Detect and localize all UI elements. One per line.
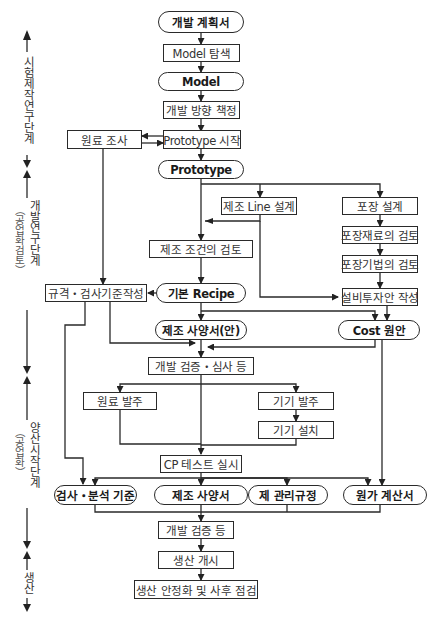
- node-packaging-design: 포장 설계: [342, 197, 418, 215]
- node-development-plan: 개발 계획서: [158, 11, 244, 33]
- node-raw-material-survey: 원료 조사: [67, 130, 142, 149]
- node-facility-investment-plan: 설비투자안 작성: [342, 288, 418, 306]
- node-development-verification: 개발 검증 등: [158, 521, 234, 539]
- stage-label-development-research: 개발연구단계: [26, 200, 42, 266]
- node-equipment-order: 기기 발주: [258, 392, 334, 410]
- node-prototype: Prototype: [158, 160, 244, 179]
- stage-sublabel-industrialization: （공업화）: [12, 427, 27, 477]
- node-raw-material-order: 원료 발주: [83, 392, 157, 410]
- node-cost-draft: Cost 원안: [338, 320, 420, 340]
- node-manufacturing-condition-review: 제조 조건의 검토: [149, 240, 253, 258]
- node-equipment-install: 기기 설치: [258, 421, 334, 439]
- node-packaging-method-review: 포장기법의 검토: [342, 255, 418, 273]
- stage-label-mass-production-start: 양산시작단계: [26, 422, 42, 488]
- node-production-start: 생산 개시: [158, 551, 234, 569]
- node-production-stabilization: 생산 안정화 및 사후 점검: [134, 580, 258, 599]
- node-model-search: Model 탐색: [163, 44, 240, 62]
- node-development-verification-review: 개발 검증・심사 등: [148, 357, 254, 375]
- node-manufacturing-spec-draft: 제조 사양서(안): [155, 320, 247, 340]
- node-spec-inspection-standard: 규격・검사기준작성: [45, 284, 147, 302]
- stage-label-prototype-research: 시험제작연구단계: [20, 56, 36, 144]
- node-prototype-start: Prototype 시작: [163, 130, 241, 149]
- node-cost-calculation: 원가 계산서: [343, 485, 427, 505]
- node-development-direction: 개발 방향 책정: [163, 101, 240, 119]
- node-line-design: 제조 Line 설계: [221, 197, 297, 215]
- stage-sublabel-industrialization-review: （공업화검토）: [12, 205, 27, 275]
- node-packaging-material-review: 포장재료의 검토: [342, 226, 418, 244]
- node-manufacturing-spec: 제조 사양서: [154, 485, 248, 505]
- node-model: Model: [158, 72, 244, 91]
- node-management-rules: 제 관리규정: [248, 485, 328, 505]
- node-inspection-analysis-standard: 검사・분석 기준: [54, 485, 137, 505]
- stage-label-production: 생산: [20, 572, 36, 594]
- node-basic-recipe: 기본 Recipe: [156, 283, 246, 303]
- node-cp-test: CP 테스트 실시: [160, 455, 242, 473]
